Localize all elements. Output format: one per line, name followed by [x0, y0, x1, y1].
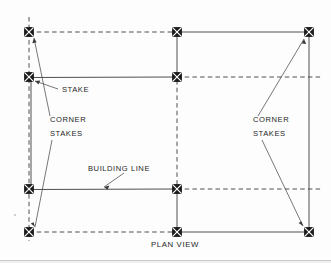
label-building-line: BUILDING LINE — [88, 164, 150, 173]
label-corner-stakes-right-line1: CORNER — [253, 115, 289, 124]
caption-plan-view: PLAN VIEW — [151, 240, 199, 249]
label-corner-stakes-right-line2: STAKES — [253, 129, 286, 138]
leader-corner-left-lower — [35, 140, 52, 227]
stake-upper-middle — [172, 72, 181, 81]
stake-top-right — [304, 27, 313, 36]
solid-line-building-top — [29, 77, 177, 78]
stake-bottom-middle — [172, 227, 181, 236]
leader-corner-right-lower — [262, 140, 303, 226]
stake-lower-left — [24, 184, 33, 193]
label-corner-stakes-left-line2: STAKES — [50, 129, 83, 138]
plan-view-drawing: STAKE CORNER STAKES CORNER STAKES BUILDI… — [0, 0, 331, 263]
arrowhead-corner-right-lower — [299, 221, 303, 226]
label-stake: STAKE — [62, 85, 89, 94]
leader-corner-right-upper — [258, 39, 304, 116]
solid-line-building-bottom — [29, 189, 177, 190]
stake-bottom-right — [304, 227, 313, 236]
page-edge-rule — [0, 259, 331, 263]
plan-view-diagram: STAKE CORNER STAKES CORNER STAKES BUILDI… — [0, 0, 331, 263]
stake-top-left — [24, 27, 33, 36]
paper-speck — [14, 214, 16, 216]
leader-building-line — [104, 173, 124, 187]
arrowhead-corner-left-lower — [31, 222, 35, 227]
stake-top-middle — [172, 27, 181, 36]
stake-bottom-left — [24, 227, 33, 236]
arrowhead-corner-left-upper — [32, 38, 36, 43]
stake-upper-left — [24, 72, 33, 81]
label-corner-stakes-left-line1: CORNER — [50, 115, 86, 124]
stake-lower-middle — [172, 184, 181, 193]
